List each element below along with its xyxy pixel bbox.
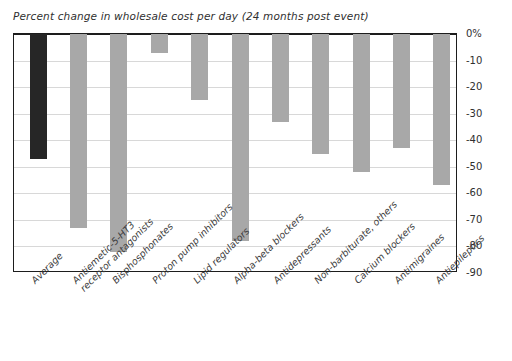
bar [433,34,450,185]
bar [151,34,168,53]
bar [353,34,370,172]
bar [70,34,87,228]
bar [191,34,208,100]
bar [393,34,410,148]
y-axis-tick-label: -20 [466,81,482,92]
y-axis-tick-label: 0% [466,28,482,39]
y-axis-tick-label: -50 [466,160,482,171]
y-axis-tick-label: -10 [466,54,482,65]
bar [312,34,329,154]
y-axis-tick-label: -40 [466,134,482,145]
chart-title: Percent change in wholesale cost per day… [13,10,369,22]
y-axis-tick-label: -30 [466,107,482,118]
x-axis-labels: AverageAntiemetic-5-HT3 receptor antagon… [0,272,512,361]
bar [232,34,249,241]
y-axis-tick-label: -60 [466,187,482,198]
bar [272,34,289,122]
y-axis-tick-label: -70 [466,213,482,224]
bar [110,34,127,252]
bar-chart: Percent change in wholesale cost per day… [0,0,512,361]
bar [30,34,47,159]
